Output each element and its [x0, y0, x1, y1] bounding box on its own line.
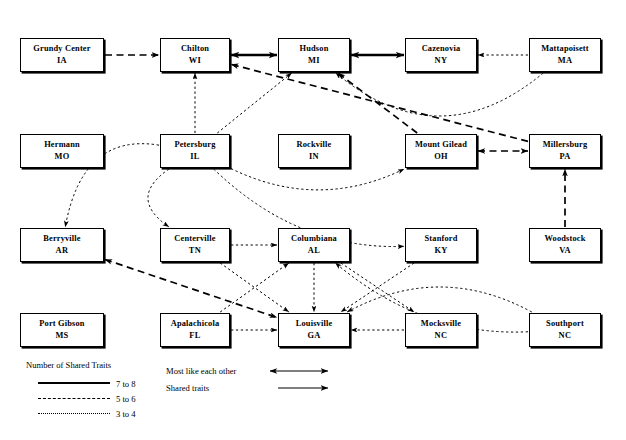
node-cazenovia[interactable]: CazenoviaNY: [405, 38, 477, 72]
node-southport[interactable]: SouthportNC: [529, 313, 601, 347]
legend-arrow-label: Shared traits: [166, 383, 262, 393]
node-chilton[interactable]: ChiltonWI: [160, 38, 230, 72]
legend-arrow-double: Most like each other: [166, 362, 336, 379]
node-state-label: MS: [55, 331, 68, 341]
node-louisville[interactable]: LouisvilleGA: [278, 313, 350, 347]
node-woodstock[interactable]: WoodstockVA: [529, 228, 601, 262]
edge-petersburg-to-centerville: [148, 169, 169, 227]
node-city-label: Columbiana: [291, 234, 337, 244]
node-city-label: Cazenovia: [422, 44, 461, 54]
node-state-label: IL: [190, 152, 200, 162]
edge-berryville-to-louisville: [105, 260, 277, 318]
node-city-label: Port Gibson: [39, 319, 84, 329]
node-city-label: Mattapoisett: [541, 44, 589, 54]
node-city-label: Centerville: [174, 234, 215, 244]
node-centerville[interactable]: CentervilleTN: [160, 228, 230, 262]
node-state-label: AR: [56, 246, 69, 256]
node-grundy[interactable]: Grundy CenterIA: [20, 38, 104, 72]
edge-petersburg-to-mountgilead: [231, 169, 404, 190]
node-state-label: NY: [435, 56, 448, 66]
node-city-label: Apalachicola: [171, 319, 220, 329]
node-state-label: MO: [54, 152, 69, 162]
node-hermann[interactable]: HermannMO: [20, 134, 104, 168]
node-state-label: MA: [558, 56, 573, 66]
node-city-label: Chilton: [181, 44, 209, 54]
node-city-label: Petersburg: [174, 140, 215, 150]
node-state-label: PA: [559, 152, 570, 162]
node-state-label: NC: [435, 331, 448, 341]
node-state-label: KY: [434, 246, 447, 256]
node-millersburg[interactable]: MillersburgPA: [529, 134, 601, 168]
edge-paths: [65, 55, 565, 332]
legend-item-label: 7 to 8: [116, 379, 136, 389]
node-mountgilead[interactable]: Mount GileadOH: [405, 134, 477, 168]
node-state-label: IN: [309, 152, 319, 162]
node-city-label: Mocksville: [421, 319, 461, 329]
node-state-label: AL: [308, 246, 320, 256]
node-state-label: TN: [189, 246, 201, 256]
node-state-label: MI: [308, 56, 320, 66]
node-rockville[interactable]: RockvilleIN: [278, 134, 350, 168]
node-city-label: Rockville: [296, 140, 331, 150]
node-state-label: GA: [307, 331, 320, 341]
node-city-label: Southport: [546, 319, 584, 329]
node-mattapoisett[interactable]: MattapoisettMA: [529, 38, 601, 72]
legend-line-dashed-icon: [38, 398, 110, 400]
diagram-canvas: Grundy CenterIAChiltonWIHudsonMICazenovi…: [0, 0, 626, 440]
edge-columbiana-to-mocksville: [341, 263, 414, 312]
node-stanford[interactable]: StanfordKY: [405, 228, 477, 262]
node-city-label: Woodstock: [544, 234, 585, 244]
node-city-label: Grundy Center: [33, 44, 90, 54]
legend-line-dotted-icon: [38, 413, 110, 415]
node-columbiana[interactable]: ColumbianaAL: [278, 228, 350, 262]
node-city-label: Millersburg: [543, 140, 588, 150]
edge-centerville-to-louisville: [220, 263, 289, 312]
legend-arrow-single: Shared traits: [166, 379, 336, 396]
node-city-label: Mount Gilead: [415, 140, 467, 150]
node-state-label: VA: [559, 246, 571, 256]
node-state-label: WI: [189, 56, 201, 66]
legend-arrow-types: Most like each otherShared traits: [166, 362, 336, 396]
node-petersburg[interactable]: PetersburgIL: [160, 134, 230, 168]
node-state-label: NC: [559, 331, 572, 341]
node-hudson[interactable]: HudsonMI: [278, 38, 350, 72]
edge-petersburg-to-hudson: [217, 73, 291, 133]
node-portgibson[interactable]: Port GibsonMS: [20, 313, 104, 347]
node-state-label: IA: [57, 56, 67, 66]
node-apalachicola[interactable]: ApalachicolaFL: [160, 313, 230, 347]
legend-item-label: 5 to 6: [116, 394, 136, 404]
edge-apalachicola-to-columbiana: [220, 263, 289, 312]
node-berryville[interactable]: BerryvilleAR: [20, 228, 104, 262]
node-state-label: FL: [189, 331, 200, 341]
node-city-label: Berryville: [43, 234, 81, 244]
legend-item-label: 3 to 4: [116, 409, 136, 419]
edge-southport-to-louisville: [347, 287, 532, 312]
node-state-label: OH: [434, 152, 448, 162]
legend-line-solid-icon: [38, 382, 110, 385]
edge-mountgilead-to-hudson: [338, 73, 417, 133]
node-city-label: Louisville: [296, 319, 333, 329]
node-city-label: Hudson: [300, 44, 329, 54]
edge-millersburg-to-chilton: [231, 64, 528, 141]
double-arrow-icon: [262, 365, 336, 377]
node-city-label: Stanford: [425, 234, 458, 244]
single-arrow-icon: [262, 382, 336, 394]
node-mocksville[interactable]: MocksvilleNC: [405, 313, 477, 347]
edge-stanford-to-louisville: [341, 263, 414, 312]
legend-arrow-label: Most like each other: [166, 366, 262, 376]
node-city-label: Hermann: [44, 140, 80, 150]
edge-mattapoisett-to-hudson: [336, 73, 544, 116]
legend-item-dotted: 3 to 4: [38, 406, 206, 421]
